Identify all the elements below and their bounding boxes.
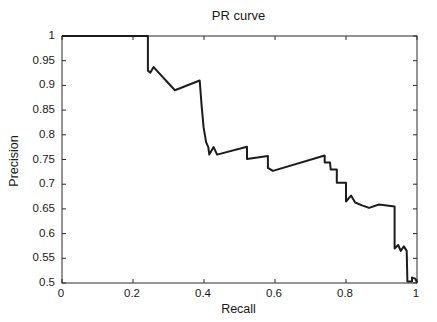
x-tick-label: 0.6 [254, 287, 294, 299]
y-tick-label: 0.5 [0, 276, 55, 288]
y-tick-label: 0.7 [0, 177, 55, 189]
axes-box [62, 36, 417, 283]
y-tick-label: 0.6 [0, 227, 55, 239]
pr-curve-figure: PR curve Precision 00.20.40.60.81 0.50.5… [0, 0, 437, 322]
x-tick-label: 0.4 [183, 287, 223, 299]
pr-curve-line [62, 36, 417, 283]
x-tick-label: 0.2 [112, 287, 152, 299]
x-tick-label: 0.8 [325, 287, 365, 299]
x-tick-label: 0 [41, 287, 81, 299]
y-tick-label: 0.85 [0, 103, 55, 115]
plot-area [61, 35, 418, 284]
y-tick-label: 0.9 [0, 78, 55, 90]
y-tick-label: 0.65 [0, 202, 55, 214]
y-tick-label: 1 [0, 29, 55, 41]
y-tick-label: 0.75 [0, 153, 55, 165]
x-tick-label: 1 [396, 287, 436, 299]
y-tick-label: 0.8 [0, 128, 55, 140]
x-axis-label: Recall [61, 302, 416, 316]
y-tick-label: 0.95 [0, 54, 55, 66]
y-tick-label: 0.55 [0, 251, 55, 263]
chart-title: PR curve [61, 8, 416, 23]
